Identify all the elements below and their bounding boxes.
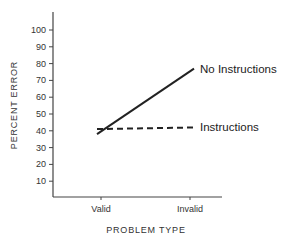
y-tick-label: 60 [36, 92, 46, 102]
series-label: Instructions [200, 121, 259, 133]
series-line-instructions [97, 127, 194, 129]
y-tick-label: 10 [36, 176, 46, 186]
x-tick-label: Invalid [177, 204, 203, 214]
y-tick-label: 100 [31, 25, 46, 35]
y-tick-label: 30 [36, 143, 46, 153]
y-tick-label: 80 [36, 59, 46, 69]
x-axis-title: PROBLEM TYPE [106, 225, 185, 235]
y-tick-label: 20 [36, 159, 46, 169]
y-tick-label: 90 [36, 42, 46, 52]
series-line-no-instructions [97, 69, 194, 135]
x-tick-label: Valid [91, 204, 110, 214]
series-label: No Instructions [200, 63, 277, 75]
line-chart: 102030405060708090100ValidInvalidPROBLEM… [0, 0, 281, 239]
y-axis-title: PERCENT ERROR [9, 61, 19, 149]
y-tick-label: 40 [36, 126, 46, 136]
y-tick-label: 50 [36, 109, 46, 119]
y-tick-label: 70 [36, 75, 46, 85]
